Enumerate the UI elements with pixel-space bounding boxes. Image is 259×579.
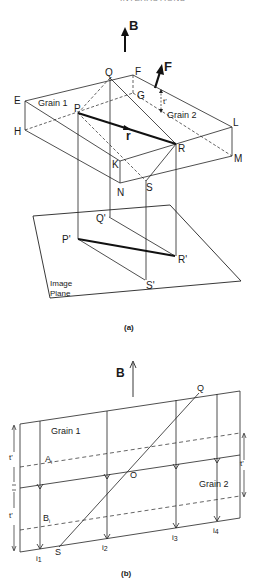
figure-b: B xyxy=(9,361,246,578)
figure-a: B F t' xyxy=(14,18,242,332)
b-field-label-b: B xyxy=(116,366,125,380)
intensity-i3-label: i3 xyxy=(172,533,178,542)
point-f-label: F xyxy=(135,66,141,77)
grain1-label-b: Grain 1 xyxy=(51,426,81,436)
thickness-left-lower-label: t' xyxy=(9,511,13,520)
point-s-label-b: S xyxy=(55,547,61,557)
point-l-label: L xyxy=(233,117,239,128)
intensity-i2-label: i2 xyxy=(102,543,108,552)
point-q-label-b: Q xyxy=(197,383,204,393)
thickness-right-label: t' xyxy=(240,459,244,468)
point-r-prime-label: R' xyxy=(178,254,187,265)
image-plane-label-1: Image xyxy=(50,279,73,288)
point-p-prime-label: P' xyxy=(62,234,71,245)
figure-canvas: B F t' xyxy=(0,0,259,579)
intensity-i1-label: i1 xyxy=(36,554,42,563)
point-q-label: Q xyxy=(105,67,113,78)
grain2-label-a: Grain 2 xyxy=(167,110,197,120)
point-a-label: Ai xyxy=(45,454,52,465)
b-field-arrow-icon xyxy=(121,27,129,52)
force-arrow-icon xyxy=(155,64,164,88)
intensity-i4-label: i4 xyxy=(213,526,219,535)
b-field-arrow-icon xyxy=(130,361,136,397)
grain1-label-a: Grain 1 xyxy=(38,98,68,108)
point-q-prime-label: Q' xyxy=(96,213,106,224)
b-field-label: B xyxy=(129,18,138,33)
point-o-label-b: O xyxy=(130,470,137,480)
point-m-label: M xyxy=(234,153,242,164)
r-vector-label: r xyxy=(126,129,131,143)
grain2-label-b: Grain 2 xyxy=(199,479,229,489)
point-g-label: G xyxy=(137,90,145,101)
grain-block xyxy=(25,75,232,217)
thickness-left-upper-label: t' xyxy=(9,453,13,462)
point-p-label: P xyxy=(74,103,81,114)
point-r-label: R xyxy=(178,143,185,154)
force-label: F xyxy=(164,59,172,74)
point-b-label: Bi xyxy=(43,513,50,524)
point-s-prime-label: S' xyxy=(146,280,155,291)
point-k-label: K xyxy=(112,159,119,170)
caption-b: (b) xyxy=(121,569,132,578)
caption-a: (a) xyxy=(124,323,134,332)
point-e-label: E xyxy=(14,95,21,106)
point-n-label: N xyxy=(117,187,124,198)
image-plane-label-2: Plane xyxy=(50,289,71,298)
point-h-label: H xyxy=(14,126,21,137)
thickness-markers-left xyxy=(12,425,16,551)
thickness-label: t' xyxy=(163,97,167,106)
point-s-label: S xyxy=(146,182,153,193)
